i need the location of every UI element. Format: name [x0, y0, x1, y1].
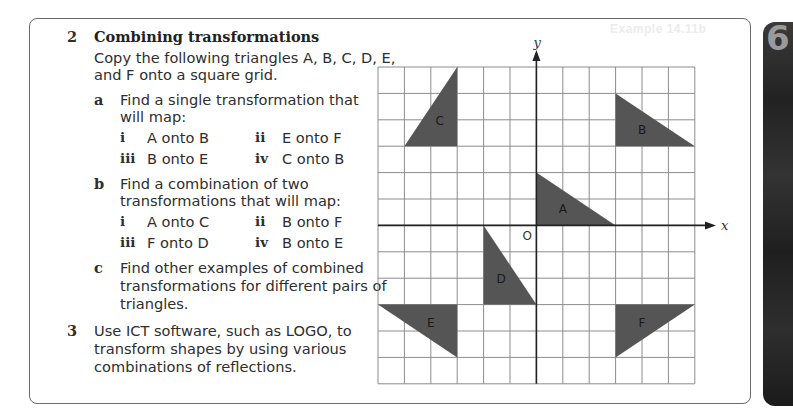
triangle-label-d: D — [497, 272, 506, 286]
y-axis-arrow-icon — [532, 50, 540, 61]
triangle-label-f: F — [639, 316, 646, 330]
origin-label: O — [522, 229, 531, 243]
x-axis-arrow-icon — [705, 221, 716, 229]
y-axis-label: y — [532, 35, 541, 50]
triangle-label-e: E — [427, 316, 435, 330]
triangle-label-c: C — [435, 114, 443, 128]
triangle-label-a: A — [559, 202, 568, 216]
x-axis-label: x — [721, 218, 729, 233]
triangle-label-b: B — [638, 123, 646, 137]
